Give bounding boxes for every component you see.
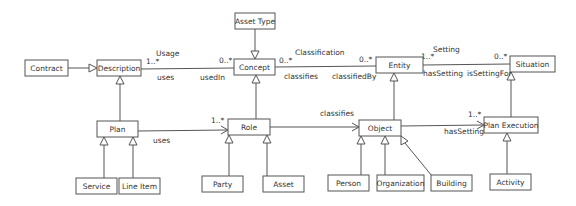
class-name: Object bbox=[368, 124, 392, 133]
class-name: Person bbox=[336, 179, 361, 188]
generalization-arrow-icon bbox=[381, 136, 389, 144]
class-name: Line Item bbox=[122, 182, 157, 191]
multiplicity-setting-target: 0..* bbox=[494, 52, 508, 61]
role-object-hassetting: hasSetting bbox=[444, 127, 484, 136]
assoc-classification bbox=[275, 66, 376, 67]
multiplicity-classification-source: 0..* bbox=[279, 56, 293, 65]
class-organization: Organization bbox=[377, 175, 425, 191]
class-name: Asset Type bbox=[235, 17, 275, 26]
class-line-item: Line Item bbox=[119, 178, 160, 194]
assoc-name-usage: Usage bbox=[156, 49, 180, 58]
class-name: Service bbox=[83, 182, 111, 191]
class-name: Entity bbox=[389, 61, 411, 70]
role-usedin: usedIn bbox=[200, 73, 225, 82]
assoc-usage bbox=[141, 68, 234, 69]
class-name: Concept bbox=[239, 63, 270, 72]
multiplicity-classification-target: 0..* bbox=[359, 55, 373, 64]
class-name: Party bbox=[213, 180, 233, 189]
class-name: Contract bbox=[30, 64, 62, 73]
class-name: Activity bbox=[496, 178, 525, 187]
generalization-arrow-icon bbox=[251, 51, 259, 59]
multiplicity-usage-target: 0..* bbox=[219, 56, 233, 65]
generalization-arrow-icon bbox=[390, 73, 398, 81]
generalization-arrow-icon bbox=[401, 136, 408, 145]
generalization-arrow-icon bbox=[129, 137, 137, 145]
class-party: Party bbox=[202, 176, 243, 192]
class-concept: Concept bbox=[234, 59, 275, 75]
assoc-setting bbox=[423, 64, 510, 65]
class-name: Building bbox=[436, 179, 467, 188]
class-activity: Activity bbox=[490, 174, 531, 190]
role-classifies: classifies bbox=[284, 72, 318, 81]
generalization-arrow-icon bbox=[357, 136, 365, 144]
class-contract: Contract bbox=[25, 60, 68, 76]
assoc-plan-uses-role bbox=[138, 130, 227, 131]
class-service: Service bbox=[76, 178, 117, 194]
role-role-classifies: classifies bbox=[320, 109, 354, 118]
assoc-name-setting: Setting bbox=[433, 45, 460, 54]
class-situation: Situation bbox=[510, 56, 555, 72]
class-name: Role bbox=[241, 123, 258, 132]
class-name: Situation bbox=[516, 60, 550, 69]
generalization-arrow-icon bbox=[503, 133, 511, 141]
class-name: Plan bbox=[110, 125, 126, 134]
class-entity: Entity bbox=[376, 57, 423, 73]
generalization-arrow-icon bbox=[100, 137, 108, 145]
role-plan-uses: uses bbox=[153, 136, 170, 145]
generalization-arrow-icon bbox=[263, 135, 271, 143]
class-object: Object bbox=[359, 120, 401, 136]
class-description: Description bbox=[97, 60, 141, 76]
assoc-name-classification: Classification bbox=[295, 48, 345, 57]
generalization-arrow-icon bbox=[225, 135, 233, 143]
generalization-arrow-icon bbox=[252, 75, 260, 83]
generalization-arrow-icon bbox=[89, 64, 97, 72]
class-name: Plan Execution bbox=[483, 121, 538, 130]
multiplicity-usage-source: 1..* bbox=[146, 57, 160, 66]
class-person: Person bbox=[328, 175, 369, 191]
class-asset: Asset bbox=[263, 176, 304, 192]
uml-diagram: 1..* Usage uses 0..* usedIn 0..* Classif… bbox=[0, 0, 576, 206]
multiplicity-object-hassetting: 1..* bbox=[468, 110, 482, 119]
role-hassetting: hasSetting bbox=[423, 69, 463, 78]
multiplicity-plan-uses: 1..* bbox=[211, 116, 225, 125]
class-building: Building bbox=[431, 175, 472, 191]
generalization-arrow-icon bbox=[116, 76, 124, 84]
class-name: Description bbox=[98, 64, 141, 73]
gen-building-object bbox=[405, 143, 432, 176]
assoc-object-hassetting-planexecution bbox=[401, 125, 483, 126]
role-uses: uses bbox=[157, 73, 174, 82]
role-issettingfor: isSettingFor bbox=[467, 69, 512, 78]
class-role: Role bbox=[228, 119, 270, 135]
class-plan-execution: Plan Execution bbox=[483, 117, 538, 133]
class-plan: Plan bbox=[97, 121, 138, 137]
class-name: Organization bbox=[377, 179, 425, 188]
role-classifiedby: classifiedBy bbox=[332, 72, 377, 81]
class-asset-type: Asset Type bbox=[235, 13, 275, 29]
class-name: Asset bbox=[273, 180, 294, 189]
